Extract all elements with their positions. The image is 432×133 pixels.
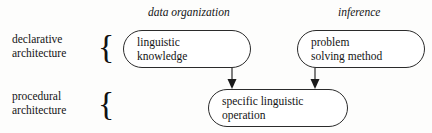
- arrow-method-to-operation: [311, 68, 320, 89]
- arrow-method-to-operation-head-icon: [311, 79, 320, 89]
- column-header-inference: inference: [338, 6, 380, 19]
- arrow-knowledge-to-operation: [228, 68, 237, 89]
- architecture-diagram: data organization inference declarative …: [0, 0, 432, 133]
- arrow-knowledge-to-operation-head-icon: [228, 79, 237, 89]
- row-label-procedural-line1: procedural: [12, 90, 66, 104]
- node-linguistic-knowledge-label: linguistic knowledge: [124, 35, 187, 63]
- row-label-procedural-line2: architecture: [12, 104, 66, 118]
- curly-brace-declarative-icon: {: [98, 30, 114, 64]
- node-specific-linguistic-operation: specific linguistic operation: [208, 89, 348, 127]
- row-label-declarative-architecture: declarative architecture: [12, 33, 66, 60]
- column-header-data-organization: data organization: [148, 6, 230, 19]
- row-label-procedural-architecture: procedural architecture: [12, 90, 66, 117]
- node-specific-linguistic-operation-label: specific linguistic operation: [209, 94, 303, 122]
- node-problem-solving-method: problem solving method: [297, 30, 425, 68]
- node-problem-solving-method-label: problem solving method: [298, 35, 382, 63]
- row-label-declarative-line2: architecture: [12, 47, 66, 61]
- curly-brace-procedural-icon: {: [98, 87, 114, 121]
- node-linguistic-knowledge: linguistic knowledge: [123, 30, 251, 68]
- row-label-declarative-line1: declarative: [12, 33, 66, 47]
